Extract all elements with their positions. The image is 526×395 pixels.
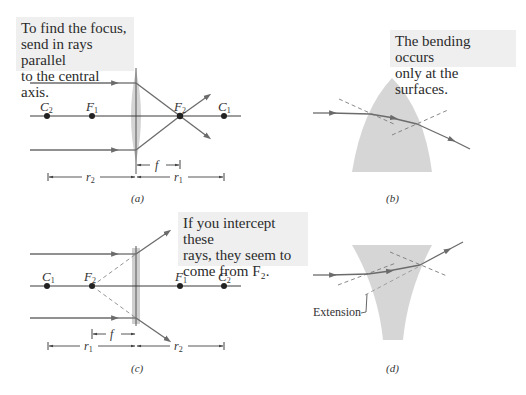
- note-line: rays, they seem to: [183, 247, 303, 263]
- caption-a: (a): [131, 192, 144, 205]
- note-line: come from F₂.: [183, 263, 303, 279]
- note-line: If you intercept these: [183, 215, 303, 247]
- note-line: to the central axis.: [21, 68, 129, 100]
- label-r1-c: r1: [84, 339, 93, 354]
- lens-section-concave: [352, 245, 432, 340]
- label-f: f: [155, 158, 160, 172]
- note-line: send in rays parallel: [21, 36, 129, 68]
- label-c2: C2: [40, 99, 53, 115]
- label-f2-c: F2: [83, 269, 96, 285]
- note-panel-c: If you intercept these rays, they seem t…: [178, 212, 308, 266]
- label-r1: r1: [174, 170, 183, 185]
- caption-b: (b): [386, 192, 399, 205]
- note-line: To find the focus,: [21, 20, 129, 36]
- panel-d: Extension (d): [313, 242, 463, 375]
- label-f2: F2: [173, 99, 186, 115]
- caption-c: (c): [131, 362, 144, 375]
- label-r2: r2: [86, 170, 95, 185]
- label-r2-c: r2: [174, 339, 183, 354]
- caption-d: (d): [386, 362, 399, 375]
- label-f-c: f: [110, 327, 115, 341]
- note-line: The bending occurs: [395, 33, 511, 65]
- note-line: only at the surfaces.: [395, 65, 511, 97]
- label-c1-c: C1: [42, 269, 55, 285]
- note-panel-b: The bending occurs only at the surfaces.: [390, 30, 516, 67]
- label-f1: F1: [85, 99, 98, 115]
- label-c1: C1: [218, 99, 231, 115]
- note-panel-a: To find the focus, send in rays parallel…: [16, 17, 134, 71]
- panel-b: (b): [313, 78, 470, 205]
- extension-label: Extension: [313, 305, 361, 319]
